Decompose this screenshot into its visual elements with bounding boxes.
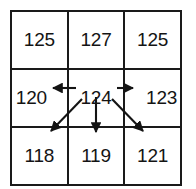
grid-cell-r1c1: 125	[11, 11, 68, 69]
pixel-grid: 125 127 125 120 124 123	[10, 10, 182, 186]
cell-value: 121	[137, 146, 168, 165]
cell-value: 123	[146, 88, 177, 107]
cell-value: 127	[80, 30, 111, 49]
grid-cell-r3c2: 119	[68, 127, 125, 185]
grid-cell-r2c1: 120	[11, 69, 68, 127]
grid-cell-r2c2-center: 124	[68, 69, 125, 127]
grid-cell-r1c3: 125	[124, 11, 181, 69]
grid-cell-r1c2: 127	[68, 11, 125, 69]
cell-value: 125	[24, 30, 55, 49]
grid-cell-r3c3: 121	[124, 127, 181, 185]
grid-cell-r2c3: 123	[124, 69, 181, 127]
cell-value-center: 124	[80, 88, 111, 107]
pixel-neighborhood-figure: 125 127 125 120 124 123	[0, 0, 196, 189]
grid-row-middle: 120 124 123	[11, 69, 181, 127]
cell-value: 119	[81, 146, 111, 165]
grid-cell-r3c1: 118	[11, 127, 68, 185]
grid-row-bottom: 118 119 121	[11, 127, 181, 185]
cell-value: 118	[24, 146, 54, 165]
cell-value: 125	[137, 30, 168, 49]
grid-row-top: 125 127 125	[11, 11, 181, 69]
cell-value: 120	[16, 88, 47, 107]
